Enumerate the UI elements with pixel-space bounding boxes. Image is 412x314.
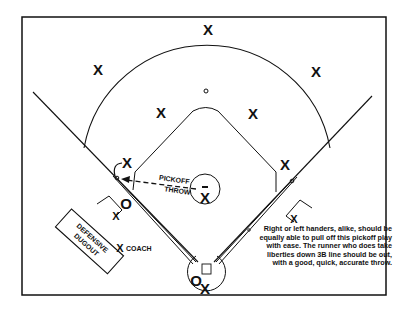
pitcher: X <box>200 189 210 206</box>
right-fielder: X <box>311 63 321 80</box>
coach-x: X <box>116 242 124 254</box>
runner-third: O <box>120 195 132 212</box>
second-base <box>204 89 208 93</box>
first-baseman: X <box>280 156 290 173</box>
third-baseman-path <box>114 163 122 176</box>
pickoff-label-line2: THROW <box>164 185 192 196</box>
third-base-coach: X <box>112 210 120 222</box>
second-baseman: X <box>248 105 258 122</box>
pitchers-rubber <box>202 186 208 188</box>
batter-runner: O <box>190 272 202 289</box>
caption-text: Right or left handers, alike, should be … <box>252 225 392 268</box>
outfield-fence-arc <box>84 45 330 148</box>
third-baseman: X <box>122 154 132 171</box>
arrowhead-icon <box>121 176 130 183</box>
pickoff-label-line1: PICKOFF <box>159 174 191 185</box>
left-fielder: X <box>93 61 103 78</box>
batters-box <box>202 264 211 274</box>
shortstop: X <box>156 104 166 121</box>
coach-label: COACH <box>126 245 152 252</box>
center-fielder: X <box>203 21 213 38</box>
